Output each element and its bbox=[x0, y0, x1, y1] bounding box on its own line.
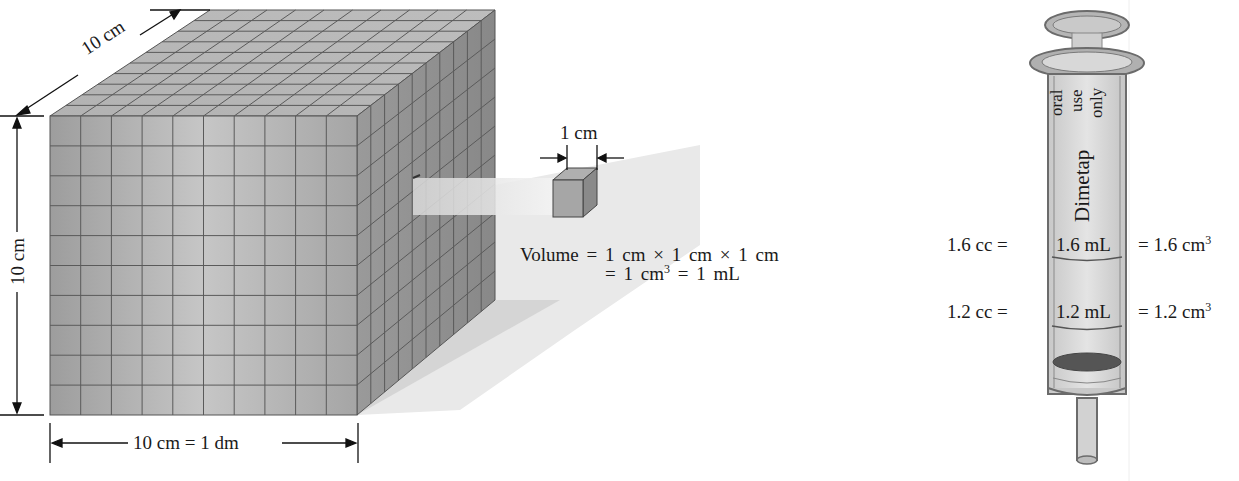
volume-equation-line1: Volume = 1 cm × 1 cm × 1 cm bbox=[520, 245, 779, 264]
volume-equation-line2: = 1 cm3 = 1 mL bbox=[605, 264, 740, 283]
diagram-graphics bbox=[0, 0, 1239, 481]
syringe-only-label: only bbox=[1088, 88, 1105, 118]
small-cube bbox=[553, 168, 597, 217]
syringe-oral-label: oral bbox=[1048, 90, 1065, 116]
small-cube-edge-label: 1 cm bbox=[560, 123, 597, 142]
mark-1-6-cc: 1.6 cc = bbox=[947, 235, 1008, 254]
mark-1-2-ml: 1.2 mL bbox=[1056, 302, 1111, 321]
mark-1-6-ml: 1.6 mL bbox=[1056, 235, 1111, 254]
syringe-brand-label: Dimetap bbox=[1072, 150, 1093, 222]
cube-height-label: 10 cm bbox=[8, 229, 27, 295]
extraction-beam bbox=[413, 175, 555, 215]
syringe-use-label: use bbox=[1068, 89, 1085, 112]
mark-1-2-cc: 1.2 cc = bbox=[947, 302, 1008, 321]
cube-width-label: 10 cm = 1 dm bbox=[133, 433, 239, 452]
mark-1-6-cm3: = 1.6 cm3 bbox=[1138, 235, 1211, 254]
mark-1-2-cm3: = 1.2 cm3 bbox=[1138, 302, 1211, 321]
volume-diagram: 10 cm 10 cm 10 cm = 1 dm 1 cm Volume = 1… bbox=[0, 0, 1239, 481]
